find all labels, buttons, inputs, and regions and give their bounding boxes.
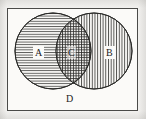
intersection-c-label: C	[67, 46, 76, 59]
venn-diagram-figure: A C B D	[0, 0, 146, 119]
set-b-label: B	[104, 46, 115, 59]
universal-set-label: D	[66, 93, 73, 104]
set-a-label: A	[33, 46, 44, 59]
